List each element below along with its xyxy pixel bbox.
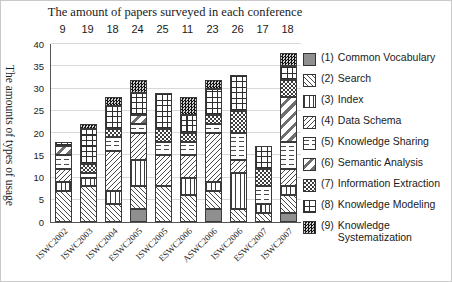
x-axis-labels: ISWC2002ISWC2003ISWC2004ESWC2005ISWC2005… — [50, 224, 300, 274]
scanned-chart-figure: The amount of papers surveyed in each co… — [0, 0, 452, 282]
bars-row — [51, 44, 301, 222]
legend-item-checker-small: (7)Information Extraction — [303, 178, 449, 192]
segment-diag-forward-thin — [180, 155, 197, 177]
segment-grid-open — [280, 66, 297, 79]
segment-wavy — [280, 142, 297, 169]
segment-checker-small — [205, 115, 222, 124]
segment-checker-small — [155, 129, 172, 142]
segment-checker-small — [105, 129, 122, 138]
segment-checker-small — [280, 80, 297, 98]
legend: (1)Common Vocabulary(2)Search(3)Index(4)… — [303, 52, 449, 244]
segment-diag-forward-thin — [155, 155, 172, 186]
papers-count-ISWC2004: 18 — [100, 23, 125, 35]
y-tick-label-10: 10 — [0, 172, 44, 183]
vertical-lines-swatch-icon — [303, 95, 316, 108]
stacked-bar-ISWC2005 — [155, 93, 172, 222]
legend-label: Search — [338, 73, 449, 85]
legend-item-vertical-lines: (3)Index — [303, 94, 449, 108]
stacked-bar-ISWC2002 — [55, 142, 72, 222]
y-tick-label-25: 25 — [0, 105, 44, 116]
papers-count-ESWC2006: 11 — [175, 23, 200, 35]
papers-surveyed-row: 9191824251123261718 — [50, 23, 300, 35]
legend-item-diag-forward-thin: (4)Data Schema — [303, 115, 449, 129]
y-tick-label-35: 35 — [0, 61, 44, 72]
bar-slot-ASWC2006 — [201, 44, 226, 222]
checker-dark-swatch-icon — [303, 221, 316, 234]
segment-wavy — [55, 155, 72, 168]
bar-slot-ESWC2005 — [126, 44, 151, 222]
legend-number: (1) — [321, 52, 334, 64]
bar-slot-ISWC2005 — [151, 44, 176, 222]
papers-count-ESWC2005: 24 — [125, 23, 150, 35]
papers-count-ISWC2003: 19 — [75, 23, 100, 35]
stacked-bar-ISWC2004 — [105, 97, 122, 222]
segment-grid-open — [130, 93, 147, 115]
diag-forward-wide-swatch-icon — [303, 158, 316, 171]
segment-grid-open — [180, 115, 197, 133]
segment-checker-dark — [130, 80, 147, 93]
segment-vertical-lines — [230, 173, 247, 209]
legend-item-grid-open: (8)Knowledge Modeling — [303, 199, 449, 213]
segment-wavy — [180, 142, 197, 155]
segment-wavy — [205, 124, 222, 133]
legend-number: (3) — [321, 94, 334, 106]
segment-checker-dark — [180, 97, 197, 115]
wavy-swatch-icon — [303, 137, 316, 150]
segment-wavy — [130, 124, 147, 133]
stacked-bar-ESWC2006 — [180, 97, 197, 222]
segment-wavy — [105, 137, 122, 150]
papers-count-ISWC2002: 9 — [50, 23, 75, 35]
segment-wavy — [230, 133, 247, 160]
segment-diag-back — [230, 209, 247, 222]
stacked-bar-ISWC2003 — [80, 124, 97, 222]
segment-diag-back — [105, 204, 122, 222]
segment-vertical-lines — [55, 182, 72, 191]
legend-item-diag-back: (2)Search — [303, 73, 449, 87]
segment-checker-small — [180, 133, 197, 142]
segment-vertical-lines — [105, 191, 122, 204]
segment-diag-forward-wide — [280, 97, 297, 142]
plot-area — [50, 44, 301, 223]
segment-solid-gray — [130, 209, 147, 222]
legend-label: Common Vocabulary — [338, 52, 449, 64]
legend-number: (9) — [321, 220, 334, 232]
bar-slot-ISWC2003 — [76, 44, 101, 222]
legend-number: (2) — [321, 73, 334, 85]
segment-checker-dark — [205, 80, 222, 89]
segment-diag-forward-thin — [205, 133, 222, 182]
papers-count-ISWC2005: 25 — [150, 23, 175, 35]
legend-label: Knowledge Systematization — [338, 220, 449, 244]
segment-checker-small — [80, 164, 97, 173]
segment-diag-back — [80, 186, 97, 222]
segment-checker-dark — [105, 97, 122, 106]
segment-vertical-lines — [80, 178, 97, 187]
y-tick-label-30: 30 — [0, 83, 44, 94]
legend-item-wavy: (5)Knowledge Sharing — [303, 136, 449, 150]
segment-diag-back — [155, 186, 172, 222]
segment-grid-open — [205, 89, 222, 116]
papers-count-ASWC2006: 23 — [200, 23, 225, 35]
segment-diag-forward-thin — [280, 169, 297, 187]
segment-vertical-lines — [130, 160, 147, 187]
legend-label: Information Extraction — [338, 178, 449, 190]
segment-grid-open — [105, 106, 122, 128]
legend-label: Index — [338, 94, 449, 106]
segment-diag-forward-thin — [55, 169, 72, 182]
bar-slot-ISWC2007 — [276, 44, 301, 222]
legend-item-solid-gray: (1)Common Vocabulary — [303, 52, 449, 66]
segment-diag-back — [280, 195, 297, 213]
diag-back-swatch-icon — [303, 74, 316, 87]
segment-vertical-lines — [280, 186, 297, 195]
legend-label: Data Schema — [338, 115, 449, 127]
segment-diag-back — [255, 213, 272, 222]
checker-small-swatch-icon — [303, 179, 316, 192]
y-tick-label-5: 5 — [0, 194, 44, 205]
segment-vertical-lines — [205, 182, 222, 191]
bar-slot-ISWC2006 — [226, 44, 251, 222]
segment-solid-gray — [280, 213, 297, 222]
segment-solid-gray — [205, 209, 222, 222]
grid-open-swatch-icon — [303, 200, 316, 213]
segment-grid-open — [80, 129, 97, 165]
segment-wavy — [155, 142, 172, 155]
papers-count-ISWC2007: 18 — [275, 23, 300, 35]
